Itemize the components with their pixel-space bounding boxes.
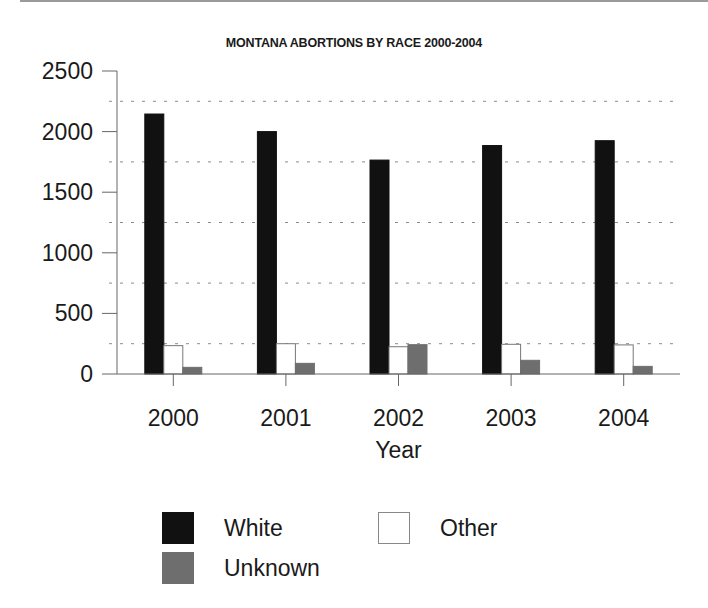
legend-label-other: Other (440, 515, 498, 542)
x-tick-label: 2002 (373, 405, 424, 431)
bar-chart: 0500100015002000250020002001200220032004… (0, 0, 708, 480)
x-tick-label: 2001 (260, 405, 311, 431)
bar-white-2003 (483, 146, 502, 374)
y-tick-label: 2500 (42, 58, 93, 84)
legend-item-other: Other (378, 512, 498, 544)
bar-other-2000 (164, 346, 183, 374)
legend-swatch-unknown (162, 552, 194, 584)
x-axis-label: Year (375, 437, 422, 463)
x-tick-label: 2000 (148, 405, 199, 431)
legend-swatch-white (162, 512, 194, 544)
bar-other-2004 (614, 345, 633, 374)
bar-white-2000 (145, 114, 164, 374)
legend-item-unknown: Unknown (162, 552, 320, 584)
y-tick-label: 2000 (42, 119, 93, 145)
legend-swatch-other (378, 512, 410, 544)
y-tick-label: 1000 (42, 240, 93, 266)
bar-white-2004 (595, 141, 614, 374)
bar-unknown-2003 (521, 360, 540, 374)
y-tick-label: 0 (80, 361, 93, 387)
bar-other-2002 (389, 347, 408, 374)
legend-item-white: White (162, 512, 283, 544)
bar-other-2001 (276, 344, 295, 374)
bar-unknown-2002 (408, 345, 427, 374)
bar-unknown-2000 (183, 367, 202, 374)
legend-label-unknown: Unknown (224, 555, 320, 582)
bar-white-2001 (257, 132, 276, 374)
bar-white-2002 (370, 160, 389, 374)
bar-unknown-2004 (633, 366, 652, 374)
bar-unknown-2001 (295, 363, 314, 374)
y-tick-label: 500 (55, 300, 93, 326)
x-tick-label: 2003 (486, 405, 537, 431)
bar-other-2003 (502, 344, 521, 374)
legend-label-white: White (224, 515, 283, 542)
x-tick-label: 2004 (598, 405, 649, 431)
y-tick-label: 1500 (42, 179, 93, 205)
